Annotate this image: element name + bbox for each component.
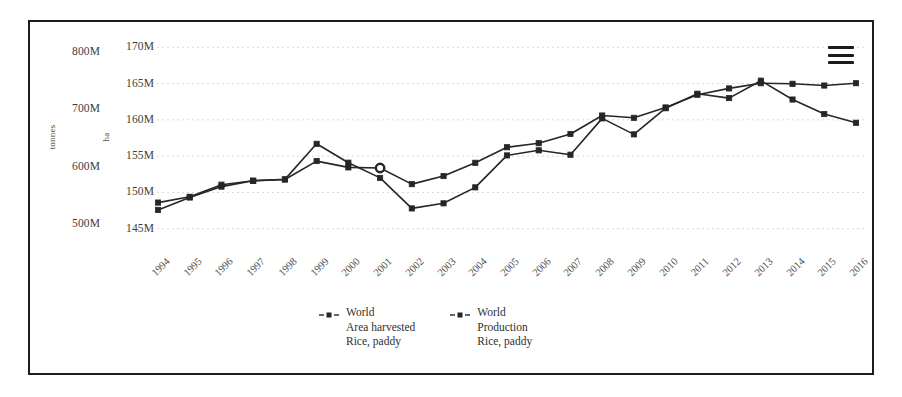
y-axis-left-tick-label: 600M <box>52 160 100 172</box>
legend-item-1[interactable]: WorldArea harvestedRice, paddy <box>318 305 415 349</box>
legend-item-label: WorldProductionRice, paddy <box>477 305 532 349</box>
data-point[interactable] <box>473 160 478 165</box>
data-point[interactable] <box>409 206 414 211</box>
data-point[interactable] <box>726 95 731 100</box>
data-point[interactable] <box>790 97 795 102</box>
data-point[interactable] <box>504 153 509 158</box>
legend-label-line: Area harvested <box>346 320 415 335</box>
data-point[interactable] <box>631 132 636 137</box>
data-point[interactable] <box>631 115 636 120</box>
data-point[interactable] <box>758 81 763 86</box>
data-point[interactable] <box>377 175 382 180</box>
legend-label-line: Production <box>477 320 532 335</box>
menu-bar-1 <box>828 46 854 49</box>
data-point[interactable] <box>790 81 795 86</box>
data-point[interactable] <box>346 165 351 170</box>
data-point[interactable] <box>441 201 446 206</box>
hamburger-menu-icon[interactable] <box>828 44 854 66</box>
data-point[interactable] <box>251 178 256 183</box>
chart-frame: tonnes ha 800M700M600M500M 170M165M160M1… <box>28 20 874 375</box>
data-point[interactable] <box>853 81 858 86</box>
y-axis-left-title: tonnes <box>47 107 57 167</box>
y-axis-right-tick-label: 170M <box>106 40 154 52</box>
data-point[interactable] <box>282 177 287 182</box>
data-point[interactable] <box>822 83 827 88</box>
legend-label-line: Rice, paddy <box>346 334 415 349</box>
menu-bar-3 <box>828 61 854 64</box>
data-point[interactable] <box>663 105 668 110</box>
data-point[interactable] <box>536 148 541 153</box>
y-axis-right-tick-label: 155M <box>106 149 154 161</box>
y-axis-right-tick-label: 165M <box>106 77 154 89</box>
legend-item-2[interactable]: WorldProductionRice, paddy <box>449 305 532 349</box>
menu-bar-2 <box>828 54 854 57</box>
data-point[interactable] <box>504 145 509 150</box>
legend-item-label: WorldArea harvestedRice, paddy <box>346 305 415 349</box>
legend-label-line: World <box>346 305 415 320</box>
data-point[interactable] <box>155 200 160 205</box>
y-axis-left-tick-label: 700M <box>52 102 100 114</box>
gridlines <box>152 47 864 228</box>
data-point[interactable] <box>695 92 700 97</box>
data-point[interactable] <box>473 185 478 190</box>
y-axis-left-tick-label: 800M <box>52 45 100 57</box>
y-axis-right-tick-label: 150M <box>106 185 154 197</box>
data-point[interactable] <box>441 173 446 178</box>
data-point[interactable] <box>726 86 731 91</box>
data-point[interactable] <box>314 158 319 163</box>
data-point[interactable] <box>568 152 573 157</box>
legend-label-line: World <box>477 305 532 320</box>
data-point[interactable] <box>187 194 192 199</box>
data-point[interactable] <box>600 113 605 118</box>
data-point[interactable] <box>409 182 414 187</box>
data-point[interactable] <box>853 120 858 125</box>
data-point-highlighted[interactable] <box>376 164 384 172</box>
data-point[interactable] <box>314 141 319 146</box>
y-axis-right-tick-label: 160M <box>106 113 154 125</box>
data-point[interactable] <box>155 207 160 212</box>
data-point[interactable] <box>822 111 827 116</box>
data-point[interactable] <box>568 131 573 136</box>
data-point[interactable] <box>219 182 224 187</box>
legend-marker-icon <box>318 307 340 319</box>
series-line-2[interactable] <box>155 81 858 206</box>
legend-marker-icon <box>449 307 471 319</box>
data-point[interactable] <box>536 141 541 146</box>
legend-label-line: Rice, paddy <box>477 334 532 349</box>
y-axis-right-tick-label: 145M <box>106 222 154 234</box>
y-axis-left-tick-label: 500M <box>52 217 100 229</box>
chart-legend: WorldArea harvestedRice, paddyWorldProdu… <box>318 305 618 349</box>
